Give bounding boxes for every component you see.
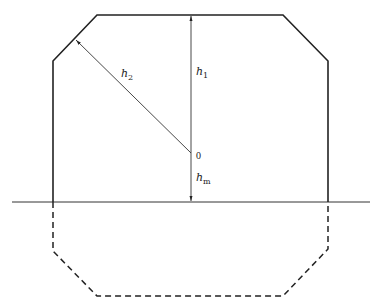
h2-label: h2 — [121, 67, 133, 82]
dashed-outline — [53, 202, 328, 296]
h1-label: h1 — [196, 65, 208, 80]
solid-outline — [53, 15, 328, 202]
origin-label: 0 — [196, 150, 201, 161]
diagram-canvas: h2 h1 hm 0 — [0, 0, 373, 306]
h2-arrow — [76, 40, 191, 153]
hm-label: hm — [196, 171, 211, 186]
